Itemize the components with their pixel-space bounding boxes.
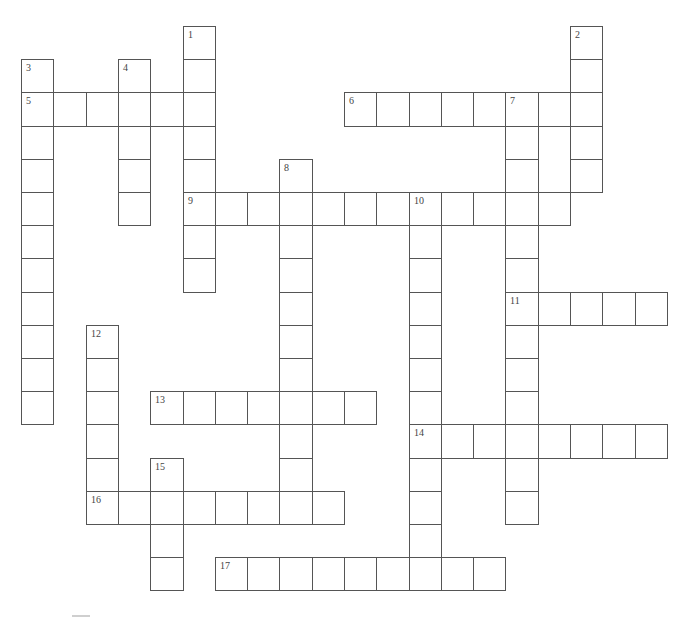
crossword-cell[interactable]: 11 [505, 292, 539, 326]
crossword-cell[interactable] [279, 458, 313, 492]
crossword-cell[interactable] [538, 192, 571, 226]
crossword-cell[interactable] [312, 557, 345, 591]
crossword-cell[interactable] [473, 192, 506, 226]
crossword-cell[interactable] [473, 92, 506, 127]
crossword-cell[interactable]: 13 [150, 391, 184, 425]
crossword-cell[interactable] [409, 225, 442, 259]
crossword-cell[interactable] [312, 491, 345, 525]
crossword-cell[interactable] [441, 192, 474, 226]
crossword-cell[interactable] [376, 557, 410, 591]
crossword-cell[interactable] [409, 391, 442, 425]
crossword-cell[interactable] [312, 192, 345, 226]
crossword-cell[interactable] [441, 92, 474, 127]
crossword-cell[interactable]: 17 [215, 557, 248, 591]
crossword-cell[interactable] [570, 159, 603, 193]
crossword-cell[interactable] [505, 225, 539, 259]
crossword-cell[interactable] [118, 192, 151, 226]
crossword-cell[interactable] [53, 92, 87, 127]
crossword-cell[interactable] [86, 424, 119, 459]
crossword-cell[interactable] [409, 557, 442, 591]
crossword-cell[interactable] [409, 458, 442, 492]
crossword-cell[interactable] [21, 225, 54, 259]
crossword-cell[interactable]: 16 [86, 491, 119, 525]
crossword-cell[interactable] [538, 424, 571, 459]
crossword-cell[interactable] [473, 424, 506, 459]
crossword-cell[interactable] [505, 325, 539, 359]
crossword-cell[interactable] [150, 92, 184, 127]
crossword-cell[interactable] [86, 458, 119, 492]
crossword-cell[interactable] [150, 557, 184, 591]
crossword-cell[interactable] [86, 358, 119, 392]
crossword-cell[interactable] [21, 325, 54, 359]
crossword-cell[interactable] [215, 391, 248, 425]
crossword-cell[interactable] [279, 292, 313, 326]
crossword-cell[interactable] [473, 557, 506, 591]
crossword-cell[interactable] [505, 391, 539, 425]
crossword-cell[interactable] [409, 325, 442, 359]
crossword-cell[interactable] [279, 325, 313, 359]
crossword-cell[interactable] [183, 391, 216, 425]
crossword-cell[interactable] [183, 491, 216, 525]
crossword-cell[interactable] [279, 491, 313, 525]
crossword-cell[interactable] [21, 358, 54, 392]
crossword-cell[interactable] [344, 557, 377, 591]
crossword-cell[interactable] [118, 159, 151, 193]
crossword-cell[interactable] [409, 292, 442, 326]
crossword-cell[interactable] [344, 192, 377, 226]
crossword-cell[interactable] [505, 258, 539, 293]
crossword-cell[interactable] [215, 491, 248, 525]
crossword-cell[interactable] [376, 92, 410, 127]
crossword-cell[interactable] [279, 258, 313, 293]
crossword-cell[interactable] [118, 491, 151, 525]
crossword-cell[interactable] [409, 92, 442, 127]
crossword-cell[interactable] [570, 292, 603, 326]
crossword-cell[interactable] [183, 126, 216, 160]
crossword-cell[interactable] [602, 292, 636, 326]
crossword-cell[interactable] [635, 424, 668, 459]
crossword-cell[interactable] [279, 225, 313, 259]
crossword-cell[interactable] [21, 192, 54, 226]
crossword-cell[interactable] [538, 292, 571, 326]
crossword-cell[interactable] [86, 391, 119, 425]
crossword-cell[interactable] [441, 424, 474, 459]
crossword-cell[interactable] [183, 159, 216, 193]
crossword-cell[interactable] [409, 358, 442, 392]
crossword-cell[interactable] [118, 126, 151, 160]
crossword-cell[interactable] [409, 491, 442, 525]
crossword-cell[interactable] [505, 126, 539, 160]
crossword-cell[interactable]: 10 [409, 192, 442, 226]
crossword-cell[interactable] [279, 358, 313, 392]
crossword-cell[interactable]: 12 [86, 325, 119, 359]
crossword-cell[interactable] [247, 391, 280, 425]
crossword-cell[interactable] [505, 424, 539, 459]
crossword-cell[interactable]: 7 [505, 92, 539, 127]
crossword-cell[interactable]: 2 [570, 26, 603, 60]
crossword-cell[interactable] [247, 491, 280, 525]
crossword-cell[interactable] [279, 557, 313, 591]
crossword-cell[interactable] [409, 258, 442, 293]
crossword-cell[interactable] [570, 424, 603, 459]
crossword-cell[interactable] [505, 159, 539, 193]
crossword-cell[interactable] [21, 292, 54, 326]
crossword-cell[interactable] [247, 557, 280, 591]
crossword-cell[interactable] [279, 192, 313, 226]
crossword-cell[interactable] [183, 225, 216, 259]
crossword-cell[interactable] [183, 59, 216, 93]
crossword-cell[interactable] [570, 92, 603, 127]
crossword-cell[interactable] [376, 192, 410, 226]
crossword-cell[interactable] [21, 126, 54, 160]
crossword-cell[interactable] [183, 92, 216, 127]
crossword-cell[interactable] [86, 92, 119, 127]
crossword-cell[interactable] [570, 59, 603, 93]
crossword-cell[interactable]: 4 [118, 59, 151, 93]
crossword-cell[interactable]: 14 [409, 424, 442, 459]
crossword-cell[interactable] [344, 391, 377, 425]
crossword-cell[interactable] [505, 358, 539, 392]
crossword-cell[interactable] [183, 258, 216, 293]
crossword-cell[interactable] [635, 292, 668, 326]
crossword-cell[interactable]: 8 [279, 159, 313, 193]
crossword-cell[interactable] [150, 491, 184, 525]
crossword-cell[interactable]: 15 [150, 458, 184, 492]
crossword-cell[interactable] [409, 524, 442, 558]
crossword-cell[interactable] [505, 491, 539, 525]
